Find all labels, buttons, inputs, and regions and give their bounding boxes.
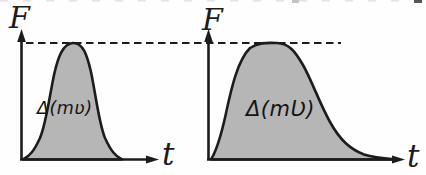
left-y-axis-label: F [8,0,31,35]
left-x-axis-label: t [162,136,175,172]
impulse-momentum-figure: F t Δ(mʋ) F t Δ(mƲ) [0,0,426,175]
right-panel: F t Δ(mƲ) [201,2,420,174]
left-area-label: Δ(mʋ) [35,98,93,118]
right-y-axis-label: F [201,2,224,37]
right-x-axis-label: t [407,138,420,174]
scan-artifact [414,0,422,3]
scan-artifact [292,0,299,3]
right-area-label: Δ(mƲ) [244,97,315,121]
left-panel: F t Δ(mʋ) [8,0,175,172]
right-x-axis-arrowhead-icon [392,155,405,163]
impulse-diagram-canvas: F t Δ(mʋ) F t Δ(mƲ) [0,0,426,175]
left-x-axis-arrowhead-icon [146,155,159,163]
